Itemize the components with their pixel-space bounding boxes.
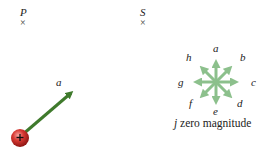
- positive-charge: [11, 129, 29, 147]
- direction-label-d: d: [237, 98, 243, 109]
- direction-label-b: b: [240, 52, 246, 63]
- direction-label-g: g: [178, 77, 184, 88]
- vector-a-label: a⃗: [56, 77, 70, 88]
- direction-label-c: c: [251, 77, 256, 88]
- zero-magnitude-caption: j zero magnitude: [174, 118, 251, 130]
- direction-label-e: e: [213, 106, 218, 117]
- zero-option-text: zero magnitude: [177, 117, 251, 129]
- point-s-marker: ×: [140, 18, 146, 28]
- direction-label-a: a: [213, 43, 219, 54]
- vector-a-arrow: [22, 93, 71, 135]
- direction-label-f: f: [189, 98, 192, 109]
- direction-label-h: h: [186, 52, 192, 63]
- point-p-marker: ×: [20, 18, 26, 28]
- direction-rose-icon: [197, 63, 235, 101]
